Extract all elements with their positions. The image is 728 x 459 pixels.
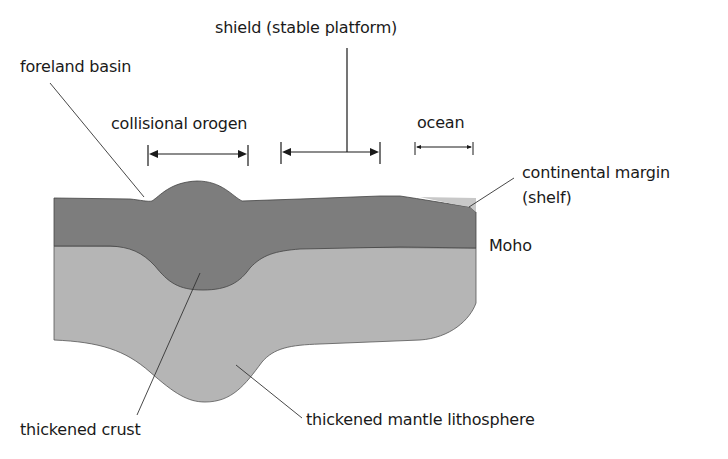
label-collisional-orogen: collisional orogen <box>111 114 247 133</box>
mantle-lithosphere-region <box>54 246 476 402</box>
label-shield: shield (stable platform) <box>215 18 397 37</box>
continental-margin-leader <box>469 178 514 207</box>
label-thickened-crust: thickened crust <box>20 420 141 439</box>
shield-span-arrow <box>281 48 380 164</box>
collisional-orogen-span-arrow <box>148 145 248 166</box>
thickened-mantle-leader <box>236 365 302 418</box>
foreland-basin-leader <box>50 83 144 197</box>
label-foreland-basin: foreland basin <box>20 57 131 76</box>
label-moho: Moho <box>489 236 532 255</box>
label-ocean: ocean <box>417 113 464 132</box>
ocean-span-arrow <box>415 142 473 155</box>
label-shelf: (shelf) <box>522 188 571 207</box>
label-continental-margin: continental margin <box>522 163 670 182</box>
label-thickened-mantle-lithosphere: thickened mantle lithosphere <box>306 410 535 429</box>
